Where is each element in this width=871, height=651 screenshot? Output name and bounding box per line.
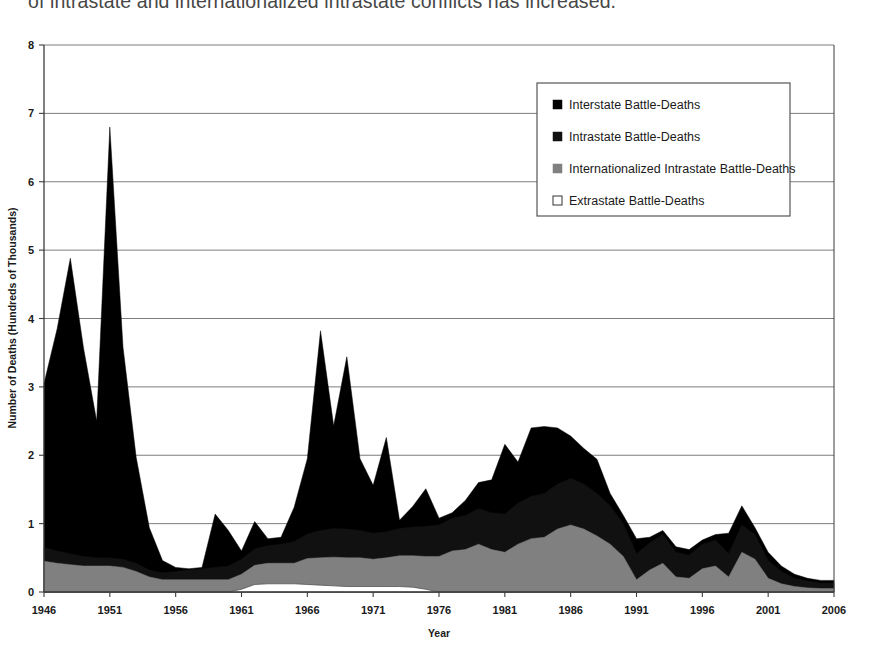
legend-swatch-filled-square-black bbox=[553, 132, 562, 141]
legend-label: Internationalized Intrastate Battle-Deat… bbox=[569, 162, 796, 176]
x-axis-title: Year bbox=[428, 627, 450, 639]
legend-label: Intrastate Battle-Deaths bbox=[569, 130, 700, 144]
y-tick-label-6: 6 bbox=[28, 176, 34, 188]
x-tick-label-1961: 1961 bbox=[229, 604, 253, 616]
legend-swatch-open-square-white bbox=[553, 196, 562, 205]
x-tick-label-1951: 1951 bbox=[98, 604, 122, 616]
x-tick-label-2001: 2001 bbox=[756, 604, 780, 616]
chart-legend: Interstate Battle-DeathsIntrastate Battl… bbox=[537, 83, 796, 216]
legend-label: Extrastate Battle-Deaths bbox=[569, 194, 704, 208]
stacked-area-chart: 012345678 194619511956196119661971197619… bbox=[0, 26, 871, 651]
x-tick-label-1971: 1971 bbox=[361, 604, 385, 616]
y-tick-label-8: 8 bbox=[28, 39, 34, 51]
legend-swatch-filled-square-black bbox=[553, 100, 562, 109]
legend-swatch-filled-square-gray bbox=[553, 164, 562, 173]
x-tick-label-1986: 1986 bbox=[558, 604, 582, 616]
x-tick-label-1996: 1996 bbox=[690, 604, 714, 616]
y-tick-label-7: 7 bbox=[28, 107, 34, 119]
y-tick-label-2: 2 bbox=[28, 449, 34, 461]
y-tick-label-1: 1 bbox=[28, 518, 34, 530]
x-tick-label-1981: 1981 bbox=[493, 604, 517, 616]
chart-figure: 012345678 194619511956196119661971197619… bbox=[0, 26, 871, 651]
y-axis-title: Number of Deaths (Hundreds of Thousands) bbox=[6, 207, 18, 428]
y-tick-label-5: 5 bbox=[28, 244, 34, 256]
x-axis-ticks: 1946195119561961196619711976198119861991… bbox=[32, 592, 846, 616]
y-tick-label-4: 4 bbox=[28, 313, 35, 325]
x-tick-label-2006: 2006 bbox=[822, 604, 846, 616]
legend-label: Interstate Battle-Deaths bbox=[569, 98, 700, 112]
y-tick-label-3: 3 bbox=[28, 381, 34, 393]
y-axis-ticks: 012345678 bbox=[28, 39, 44, 598]
x-tick-label-1946: 1946 bbox=[32, 604, 56, 616]
caption-strip: of intrastate and internationalized intr… bbox=[0, 0, 871, 26]
y-tick-label-0: 0 bbox=[28, 586, 34, 598]
x-tick-label-1976: 1976 bbox=[427, 604, 451, 616]
caption-text: of intrastate and internationalized intr… bbox=[28, 0, 616, 14]
x-tick-label-1991: 1991 bbox=[624, 604, 648, 616]
x-tick-label-1966: 1966 bbox=[295, 604, 319, 616]
x-tick-label-1956: 1956 bbox=[163, 604, 187, 616]
